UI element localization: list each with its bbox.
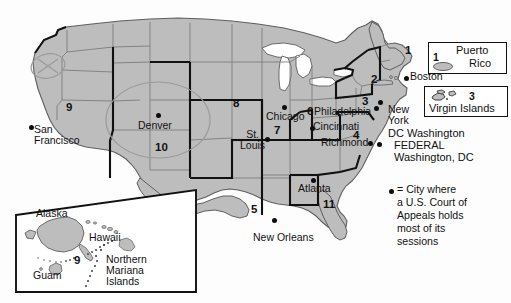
label-federal-washington-dc: Washington, DC: [394, 151, 474, 163]
circuit-number-1: 1: [405, 44, 411, 56]
legend-key-line4: most of its: [397, 222, 467, 235]
legend-key-line5: sessions: [397, 235, 467, 248]
dot-washington-dc: [377, 142, 382, 147]
city-label-san-francisco: San Francisco: [34, 124, 80, 145]
city-label-san-francisco-line2: Francisco: [34, 135, 80, 146]
city-label-new-york: New York: [388, 104, 409, 125]
dot-richmond: [368, 141, 373, 146]
legend-key-line3: Appeals holds: [397, 209, 467, 222]
circuit-number-10: 10: [155, 141, 168, 153]
city-label-richmond: Richmond: [321, 137, 368, 148]
circuit-number-6: 6: [307, 105, 313, 117]
court-of-appeals-circuit-map: San Francisco Denver St. Louis Chicago C…: [0, 0, 511, 303]
legend-key-line2: a U.S. Court of: [397, 196, 467, 209]
marthas-vineyard: [390, 76, 393, 79]
dot-new-orleans: [272, 218, 277, 223]
inset-label-alaska: Alaska: [36, 208, 68, 219]
city-label-st-louis-line2: Louis: [240, 140, 265, 151]
legend-text-virgin-islands: Virgin Islands: [429, 103, 495, 115]
dot-philadelphia: [374, 106, 379, 111]
city-label-new-york-line1: New: [388, 104, 409, 115]
dot-st-louis: [265, 137, 270, 142]
city-label-new-york-line2: York: [388, 115, 409, 126]
nantucket: [394, 76, 397, 79]
circuit-number-4: 4: [353, 129, 359, 141]
legend-key-text: = City where a U.S. Court of Appeals hol…: [397, 183, 467, 248]
dot-boston: [404, 76, 409, 81]
circuit-number-2: 2: [371, 73, 377, 85]
city-label-st-louis: St. Louis: [240, 129, 265, 150]
legend-text-puerto-rico-line1: Puerto: [456, 45, 488, 57]
circuit-number-11: 11: [323, 198, 335, 210]
inset-label-northern-mariana-islands: Northern Mariana Islands: [106, 254, 147, 287]
city-label-st-louis-line1: St.: [240, 129, 265, 140]
city-label-chicago: Chicago: [266, 111, 305, 122]
city-label-new-orleans: New Orleans: [253, 232, 314, 243]
dot-denver: [156, 113, 161, 118]
city-label-philadelphia: Philadelphia: [314, 106, 371, 117]
label-federal: FEDERAL: [394, 139, 445, 151]
lake-erie: [310, 77, 336, 86]
city-label-denver: Denver: [138, 120, 172, 131]
inset-label-hawaii: Hawaii: [89, 232, 121, 243]
label-dc-washington: DC Washington: [388, 127, 465, 139]
puerto-rico-shape: [432, 61, 454, 72]
legend-number-3: 3: [469, 90, 475, 102]
city-label-san-francisco-line1: San: [34, 124, 80, 135]
legend-box-virgin-islands: 3 Virgin Islands: [424, 86, 508, 117]
circuit-number-7: 7: [274, 124, 280, 136]
legend-key-dot: [389, 189, 394, 194]
inset-circuit-number-9: 9: [74, 254, 80, 266]
circuit-number-5: 5: [251, 203, 257, 215]
inset-label-guam: Guam: [33, 270, 62, 281]
circuit-number-8: 8: [233, 97, 239, 109]
inset-label-nmi-line3: Islands: [106, 276, 147, 287]
circuit-number-3: 3: [362, 95, 368, 107]
city-label-atlanta: Atlanta: [298, 183, 331, 194]
legend-box-puerto-rico: 1 Puerto Rico: [428, 42, 507, 74]
circuit-number-9-west: 9: [66, 101, 72, 113]
legend-text-puerto-rico-line2: Rico: [469, 58, 491, 70]
dot-new-york: [378, 100, 383, 105]
legend-key-line1: = City where: [397, 183, 467, 196]
